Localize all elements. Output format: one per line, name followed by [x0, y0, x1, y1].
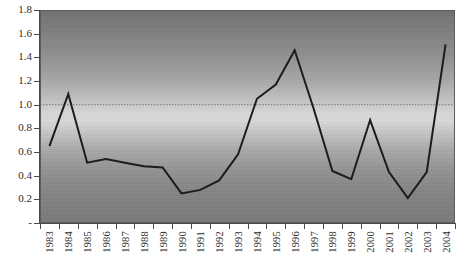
x-axis-tick	[323, 224, 324, 229]
x-axis-tick	[266, 224, 267, 229]
x-axis-label: 1988	[139, 231, 150, 253]
y-axis-tick	[34, 176, 40, 177]
x-axis-label: 1991	[195, 231, 206, 253]
x-axis-label: 1987	[120, 231, 131, 253]
y-axis-label: 1.8	[2, 4, 32, 15]
x-axis-label: 1997	[309, 231, 320, 253]
y-axis-tick	[34, 152, 40, 153]
y-axis-tick	[34, 128, 40, 129]
x-axis-label: 2004	[441, 231, 452, 253]
y-axis-tick	[34, 34, 40, 35]
x-axis-tick	[229, 224, 230, 229]
y-axis-tick	[34, 105, 40, 106]
series-layer	[40, 10, 455, 223]
x-axis-label: 2000	[365, 231, 376, 253]
x-axis-label: 1984	[63, 231, 74, 253]
x-axis-label: 1990	[177, 231, 188, 253]
x-axis-label: 2003	[422, 231, 433, 253]
y-axis-tick	[34, 81, 40, 82]
y-axis-label: 0.2	[2, 193, 32, 204]
y-axis-label: 1.0	[2, 99, 32, 110]
line-chart: -0.20.40.60.81.01.21.41.61.8 19831984198…	[0, 0, 471, 272]
x-axis-tick	[40, 224, 41, 229]
x-axis-tick	[342, 224, 343, 229]
x-axis-tick	[417, 224, 418, 229]
x-axis-label: 2002	[403, 231, 414, 253]
x-axis-tick	[97, 224, 98, 229]
y-axis-label: 1.4	[2, 51, 32, 62]
x-axis-tick	[153, 224, 154, 229]
x-axis-label: 1998	[327, 231, 338, 253]
x-axis-tick	[248, 224, 249, 229]
x-axis-label: 2001	[384, 231, 395, 253]
x-axis-tick	[172, 224, 173, 229]
x-axis-tick	[191, 224, 192, 229]
y-axis-label: 1.6	[2, 28, 32, 39]
y-axis-label: 0.8	[2, 122, 32, 133]
x-axis-label: 1983	[44, 231, 55, 253]
y-axis-tick	[34, 10, 40, 11]
x-axis-label: 1992	[214, 231, 225, 253]
x-axis-tick	[455, 224, 456, 229]
x-axis-label: 1985	[82, 231, 93, 253]
y-axis-label: 1.2	[2, 75, 32, 86]
x-axis-label: 1993	[233, 231, 244, 253]
x-axis-tick	[78, 224, 79, 229]
x-axis-label: 1989	[158, 231, 169, 253]
x-axis-tick	[285, 224, 286, 229]
x-axis-tick	[134, 224, 135, 229]
data-line-series-1	[49, 44, 445, 198]
y-axis-tick	[34, 57, 40, 58]
y-axis-label: -	[2, 217, 32, 228]
x-axis-tick	[398, 224, 399, 229]
x-axis-label: 1986	[101, 231, 112, 253]
x-axis-label: 1994	[252, 231, 263, 253]
x-axis-label: 1996	[290, 231, 301, 253]
x-axis-tick	[361, 224, 362, 229]
x-axis-tick	[380, 224, 381, 229]
x-axis-tick	[116, 224, 117, 229]
x-axis-tick	[304, 224, 305, 229]
x-axis-label: 1999	[346, 231, 357, 253]
y-axis-label: 0.4	[2, 170, 32, 181]
x-axis-tick	[59, 224, 60, 229]
y-axis-label: 0.6	[2, 146, 32, 157]
x-axis-tick	[210, 224, 211, 229]
y-axis-tick	[34, 199, 40, 200]
x-axis-label: 1995	[271, 231, 282, 253]
y-axis-line	[39, 10, 40, 224]
plot-area	[40, 10, 455, 223]
x-axis-tick	[436, 224, 437, 229]
